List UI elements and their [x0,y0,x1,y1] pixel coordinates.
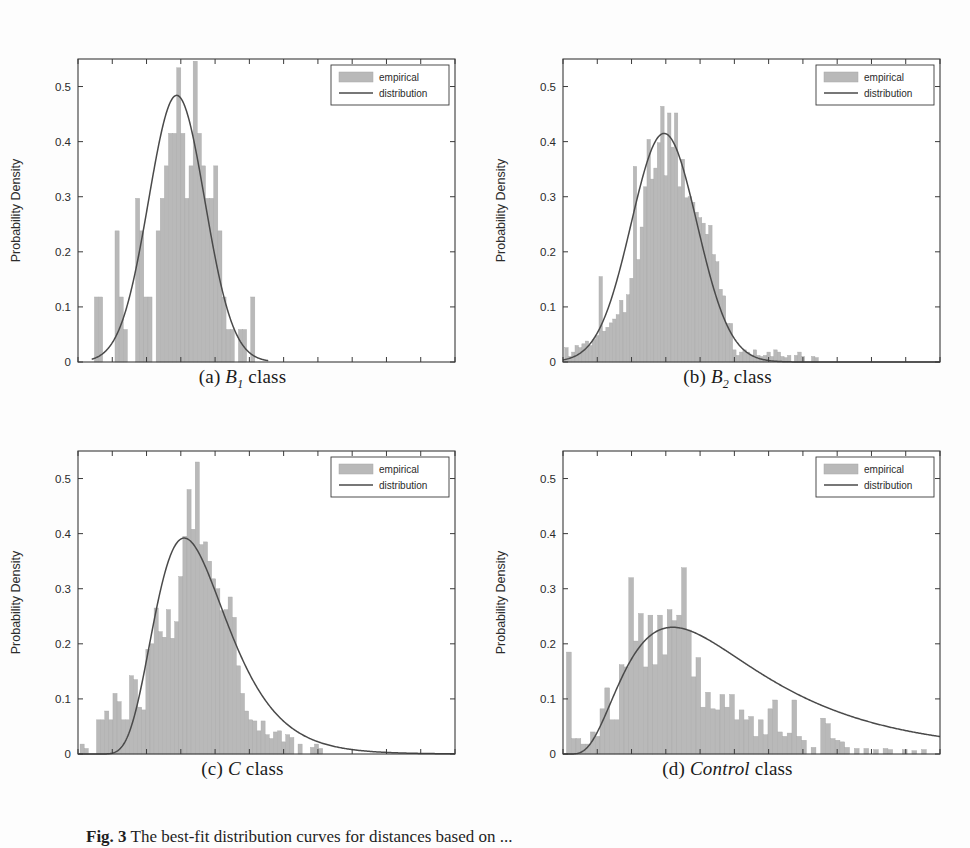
histogram-bar [193,61,197,362]
subplot-caption-a-index: (a) [199,366,221,387]
histogram-bar [166,610,170,754]
histogram-bar [638,614,643,754]
histogram-bar [154,608,158,754]
histogram-bar [585,341,588,362]
subplot-grid: 0123456789101100.10.20.30.40.5DistancePr… [0,14,970,798]
histogram-bar [802,740,807,754]
histogram-bar [576,739,581,754]
histogram-bar [600,709,605,754]
histogram-bar [797,736,802,754]
histogram-bar [191,529,195,754]
histogram-bar [719,289,722,362]
histogram-bar [80,744,84,754]
histogram-bar [888,750,893,754]
chart-svg-a: 0123456789101100.10.20.30.40.5DistancePr… [0,14,485,369]
histogram-bar [654,168,657,362]
histogram-bar [121,720,125,754]
legend-label-distribution: distribution [379,88,427,99]
legend[interactable]: empiricaldistribution [331,457,449,497]
histogram-bar [589,345,592,362]
subplot-caption-b-index: (b) [683,366,706,387]
histogram-bar [794,355,797,362]
histogram-bar [821,718,826,754]
histogram-bar [277,731,281,754]
chart-d: 0123456789101100.10.20.30.40.5DistancePr… [485,406,970,761]
histogram-bar [273,732,277,754]
legend[interactable]: empiricaldistribution [331,65,449,105]
histogram-bar [269,739,273,754]
histogram-bar [661,106,664,362]
y-axis-title: Probability Density [9,158,23,262]
histogram-bar [208,561,212,754]
histogram-bar [782,736,787,754]
histogram-bar [609,323,612,362]
legend[interactable]: empiricaldistribution [816,65,934,105]
histogram-bar [830,739,835,754]
y-tick-label: 0.2 [55,638,71,650]
histogram-bar [168,133,172,362]
legend-label-distribution: distribution [379,480,427,491]
legend-swatch-empirical [824,464,858,474]
legend[interactable]: empiricaldistribution [816,457,934,497]
histogram-bar [610,720,615,754]
histogram-bar [777,352,780,362]
histogram-bar [706,692,711,754]
histogram-bar [236,666,240,754]
histogram-bar [716,262,719,362]
histogram-bar [245,711,249,754]
subplot-caption-d-suffix: class [750,758,793,779]
histogram-bar [688,197,691,362]
histogram-bar [764,355,767,362]
figure-sheet: 0123456789101100.10.20.30.40.5DistancePr… [0,0,970,848]
chart-svg-d: 0123456789101100.10.20.30.40.5DistancePr… [485,406,970,761]
y-tick-label: 0.4 [540,528,557,540]
subplot-caption-b: (b) B2 class [485,366,970,392]
histogram-bar [251,297,255,362]
histogram-bar [171,638,175,754]
histogram-bar [571,739,576,754]
histogram-bar [633,166,636,362]
y-axis-title: Probability Density [494,158,508,262]
histogram-bar [109,720,113,754]
histogram-bar [874,750,879,754]
histogram-bar [787,355,790,362]
histogram-bar [160,198,164,362]
histogram-bar [725,707,730,754]
histogram-bar [216,589,220,754]
histogram-bar [845,747,850,754]
subplot-c: 0123456789101100.10.20.30.40.5DistancePr… [0,406,485,798]
histogram-bar [101,720,105,754]
histogram-bar [787,733,792,754]
histogram-bar [768,709,773,754]
histogram-bar [634,641,639,754]
histogram-bar [692,202,695,362]
histogram-bar [606,327,609,362]
histogram-bar [668,113,671,362]
histogram-bar [195,462,199,754]
histogram-bar [681,159,684,362]
histogram-bar [230,330,234,363]
y-tick-label: 0.5 [55,81,71,93]
histogram-bar [310,747,314,754]
legend-swatch-empirical [339,464,373,474]
subplot-caption-c: (c) C class [0,758,485,780]
y-tick-label: 0.2 [540,638,556,650]
legend-label-empirical: empirical [864,464,904,475]
histogram-bar [671,147,674,362]
histogram-bar [734,720,739,754]
histogram-bar [774,350,777,362]
histogram-bar [249,720,253,754]
histogram-bar [667,610,672,754]
subplot-caption-a-suffix: class [243,366,286,387]
histogram-bar [614,720,619,754]
histogram-bar [715,710,720,754]
histogram-bar [156,231,160,362]
y-tick-label: 0.1 [55,301,71,313]
histogram-bar [142,710,146,754]
histogram-bar [629,578,634,754]
histogram-bar [630,278,633,362]
histogram-bar [740,352,743,362]
histogram-bar [138,707,142,754]
histogram-bar [730,695,735,755]
histogram-bar [220,611,224,754]
